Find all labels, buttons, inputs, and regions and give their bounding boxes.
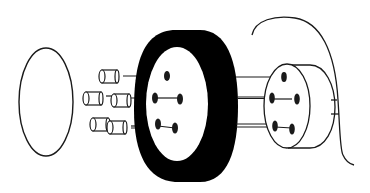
pin-contact-5 bbox=[107, 121, 127, 134]
pin-contact-1 bbox=[99, 70, 119, 83]
connector-exploded-diagram bbox=[0, 0, 370, 193]
gasket-disc bbox=[19, 48, 73, 156]
diagram-canvas bbox=[0, 0, 370, 193]
connector-body bbox=[264, 64, 335, 148]
grommet-ring bbox=[134, 30, 238, 182]
pin-contacts bbox=[83, 70, 131, 134]
pin-contact-3 bbox=[111, 94, 131, 107]
pin-contact-2 bbox=[83, 92, 103, 105]
